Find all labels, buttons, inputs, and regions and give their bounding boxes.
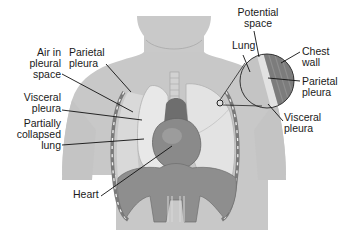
heart bbox=[153, 118, 201, 169]
label-heart: Heart bbox=[73, 189, 99, 200]
label-visceral-pleura-right: Visceral pleura bbox=[284, 112, 321, 134]
label-parietal-pleura-right: Parietal pleura bbox=[302, 76, 338, 98]
label-air-in-pleural-space: Air in pleural space bbox=[20, 47, 61, 80]
label-potential-space: Potential space bbox=[232, 7, 284, 29]
label-chest-wall: Chest wall bbox=[302, 46, 329, 68]
label-visceral-pleura-left: Visceral pleura bbox=[10, 92, 61, 114]
pneumothorax-diagram: Air in pleural space Parietal pleura Vis… bbox=[0, 0, 347, 238]
leader-chest-wall bbox=[281, 52, 300, 63]
label-parietal-pleura-left: Parietal pleura bbox=[69, 47, 105, 69]
label-lung: Lung bbox=[232, 40, 255, 51]
label-partially-collapsed-lung: Partially collapsed lung bbox=[6, 118, 61, 151]
neck bbox=[137, 16, 211, 58]
heart-highlight bbox=[162, 128, 182, 144]
